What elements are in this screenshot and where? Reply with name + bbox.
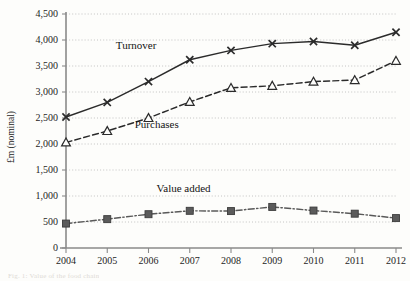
series-marker-value-added-2005	[104, 216, 111, 223]
series-marker-turnover-2005	[104, 99, 111, 106]
x-tick-label-2009: 2009	[262, 255, 282, 266]
x-tick-label-2011: 2011	[345, 255, 365, 266]
x-tick-label-2005: 2005	[97, 255, 117, 266]
y-tick-label-0: 0	[53, 242, 58, 253]
x-tick-label-2010: 2010	[304, 255, 324, 266]
series-line-purchases	[66, 61, 396, 143]
y-tick-label-500: 500	[43, 216, 58, 227]
series-marker-purchases-2012	[392, 56, 401, 64]
series-marker-value-added-2007	[186, 207, 193, 214]
y-tick-label-2000: 2,000	[36, 138, 59, 149]
y-axis-title: £m (nominal)	[6, 111, 17, 163]
series-marker-turnover-2006	[145, 78, 152, 85]
x-tick-label-2012: 2012	[386, 255, 406, 266]
x-tick-label-2007: 2007	[180, 255, 200, 266]
series-marker-value-added-2011	[351, 210, 358, 217]
y-tick-label-4500: 4,500	[36, 8, 59, 19]
y-tick-label-1500: 1,500	[36, 164, 59, 175]
series-marker-turnover-2012	[392, 29, 399, 36]
series-marker-value-added-2009	[269, 203, 276, 210]
y-tick-label-1000: 1,000	[36, 190, 59, 201]
series-label-purchases: Purchases	[135, 118, 179, 130]
series-marker-value-added-2010	[310, 207, 317, 214]
y-tick-label-3500: 3,500	[36, 60, 59, 71]
y-tick-label-2500: 2,500	[36, 112, 59, 123]
series-marker-value-added-2012	[393, 215, 400, 222]
series-marker-value-added-2006	[145, 211, 152, 218]
y-tick-label-4000: 4,000	[36, 34, 59, 45]
series-label-turnover: Turnover	[116, 39, 157, 51]
y-tick-label-3000: 3,000	[36, 86, 59, 97]
x-tick-label-2004: 2004	[56, 255, 76, 266]
x-tick-label-2006: 2006	[139, 255, 159, 266]
series-marker-value-added-2008	[228, 208, 235, 215]
series-marker-value-added-2004	[63, 220, 70, 227]
figure-caption: Fig. 1: Value of the food chain	[8, 272, 99, 281]
series-label-value-added: Value added	[157, 182, 212, 194]
x-tick-label-2008: 2008	[221, 255, 241, 266]
